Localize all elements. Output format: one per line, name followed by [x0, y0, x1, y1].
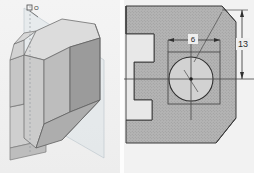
origin-label: O	[34, 5, 39, 11]
cad-figure: O	[0, 0, 254, 173]
body-chamfer-face	[44, 47, 70, 124]
panel-isometric-3d[interactable]: O	[0, 0, 120, 173]
panel-orthographic-section[interactable]: 6 13	[124, 0, 254, 173]
diameter-dimension-label: 6	[191, 35, 196, 44]
orthographic-drawing: 6 13	[124, 0, 254, 173]
body-front-right-face	[70, 38, 100, 112]
body-left-face	[10, 55, 24, 107]
isometric-drawing: O	[0, 0, 120, 173]
offset-dimension-label: 13	[238, 39, 248, 49]
